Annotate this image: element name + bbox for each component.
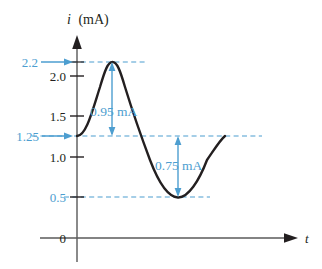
callout-arrow-2-2-head bbox=[64, 58, 73, 65]
annotation-label-0-95: 0.95 mA bbox=[90, 104, 138, 119]
callout-label-2-2: 2.2 bbox=[22, 55, 38, 70]
callout-label-1-25: 1.25 bbox=[16, 129, 39, 144]
annotation-0-75-arrowhead-down bbox=[175, 188, 182, 197]
annotation-0-95-arrowhead-down bbox=[109, 127, 116, 136]
current-waveform-chart: i (mA) t 2.0 1.5 1.0 0.5 0 2.2 1.25 0.95… bbox=[0, 0, 322, 269]
tick-label-2-0: 2.0 bbox=[50, 69, 66, 84]
figure-canvas: i (mA) t 2.0 1.5 1.0 0.5 0 2.2 1.25 0.95… bbox=[0, 0, 322, 269]
y-axis-title-unit: (mA) bbox=[78, 12, 109, 28]
x-axis-title: t bbox=[305, 231, 309, 246]
current-waveform-curve bbox=[77, 62, 225, 198]
tick-label-1-0: 1.0 bbox=[50, 150, 66, 165]
annotation-label-0-75: 0.75 mA bbox=[155, 158, 203, 173]
annotation-0-75-arrowhead-up bbox=[175, 136, 182, 145]
y-axis-arrowhead bbox=[72, 35, 82, 49]
y-axis-title-symbol: i bbox=[67, 12, 71, 27]
tick-label-0-5: 0.5 bbox=[50, 190, 66, 205]
y-axis-title: i (mA) bbox=[67, 12, 109, 28]
callout-arrow-1-25-head bbox=[64, 132, 73, 139]
origin-label: 0 bbox=[60, 231, 67, 246]
tick-label-1-5: 1.5 bbox=[50, 109, 66, 124]
x-axis-arrowhead bbox=[284, 233, 298, 243]
